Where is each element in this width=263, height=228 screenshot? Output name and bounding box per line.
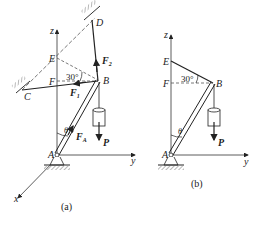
label-f2: F2 bbox=[101, 55, 112, 67]
rod-ab-b-edge1 bbox=[169, 82, 211, 153]
figure-b: z y E F B A 30° θ P (b) bbox=[158, 29, 249, 190]
label-f: F bbox=[48, 76, 56, 87]
label-fa: FA bbox=[75, 131, 87, 143]
ground-a-hatch bbox=[44, 166, 70, 170]
label-b-b: B bbox=[216, 78, 222, 89]
theta-label-b: θ bbox=[178, 127, 182, 136]
label-z-b: z bbox=[163, 29, 168, 40]
label-a: A bbox=[47, 149, 55, 160]
angle-30-arc bbox=[80, 72, 82, 81]
force-f2-arrow bbox=[96, 60, 97, 72]
ground-a-b-hatch bbox=[158, 166, 184, 170]
label-e: E bbox=[48, 53, 55, 64]
figure-a: z y x D E F C B A 30° θ F2 F1 FA P (a) bbox=[11, 0, 136, 213]
label-a-b: A bbox=[161, 149, 169, 160]
label-z: z bbox=[49, 25, 54, 36]
label-y: y bbox=[130, 155, 136, 166]
label-c: C bbox=[24, 91, 31, 102]
label-b: B bbox=[103, 75, 109, 86]
angle-30-label-b: 30° bbox=[181, 74, 194, 84]
statics-diagram: z y x D E F C B A 30° θ F2 F1 FA P (a) bbox=[0, 0, 263, 228]
wall-d-hatch bbox=[81, 0, 97, 14]
dashed-cd-line bbox=[22, 18, 95, 90]
label-p: P bbox=[103, 137, 110, 148]
label-e-b: E bbox=[162, 56, 169, 67]
pin-a-b bbox=[169, 153, 173, 157]
angle-30-arc-b bbox=[196, 75, 198, 83]
label-f1: F1 bbox=[69, 87, 80, 99]
theta-label: θ bbox=[64, 126, 68, 135]
caption-b: (b) bbox=[191, 178, 203, 190]
label-f-b: F bbox=[162, 78, 170, 89]
angle-30-label: 30° bbox=[66, 72, 79, 82]
weight-cylinder-top-b bbox=[208, 108, 220, 112]
label-y-b: y bbox=[243, 156, 249, 167]
wall-c-hatch bbox=[11, 75, 26, 88]
caption-a: (a) bbox=[61, 201, 72, 213]
pin-a bbox=[55, 153, 59, 157]
label-d: D bbox=[95, 17, 104, 28]
label-p-b: P bbox=[218, 137, 225, 148]
cable-cb bbox=[22, 81, 98, 90]
label-x: x bbox=[13, 193, 19, 204]
weight-cylinder-top bbox=[93, 108, 105, 112]
